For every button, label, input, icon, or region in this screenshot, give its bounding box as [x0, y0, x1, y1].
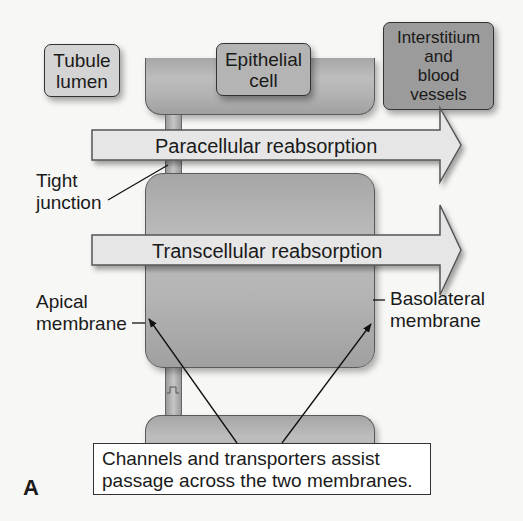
transcellular-label: Transcellular reabsorption — [152, 240, 382, 263]
tight-junction-label: Tight junction — [36, 170, 102, 214]
junction-squiggle — [167, 387, 179, 393]
callout-arrow-basolateral — [282, 324, 371, 443]
basolateral-membrane-label: Basolateral membrane — [390, 288, 485, 332]
paracellular-label: Paracellular reabsorption — [155, 135, 377, 158]
panel-letter: A — [23, 475, 39, 501]
channels-transporters-callout: Channels and transporters assist passage… — [93, 443, 431, 495]
tight-junction-leader — [108, 165, 168, 200]
apical-membrane-label: Apical membrane — [36, 291, 127, 335]
callout-arrow-apical — [149, 319, 237, 443]
